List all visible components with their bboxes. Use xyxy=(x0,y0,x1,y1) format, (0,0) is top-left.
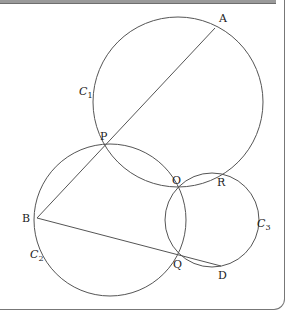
point-label-r: R xyxy=(217,176,226,189)
circle-c2 xyxy=(34,144,186,296)
geometry-diagram: A P O R B Q D C1 C2 C3 xyxy=(0,0,292,315)
segment-ab xyxy=(37,28,215,218)
circle-label-c1: C1 xyxy=(79,85,93,100)
circle-c1 xyxy=(93,17,263,187)
circle-label-c3: C3 xyxy=(257,217,271,232)
point-label-d: D xyxy=(218,269,227,282)
segment-bd xyxy=(37,218,221,266)
point-label-p: P xyxy=(100,130,108,143)
circle-c3 xyxy=(165,173,259,267)
circle-label-c2: C2 xyxy=(30,248,44,263)
point-label-o: O xyxy=(172,174,181,187)
point-label-a: A xyxy=(218,12,228,25)
point-label-q: Q xyxy=(173,258,182,271)
point-label-b: B xyxy=(22,212,30,225)
